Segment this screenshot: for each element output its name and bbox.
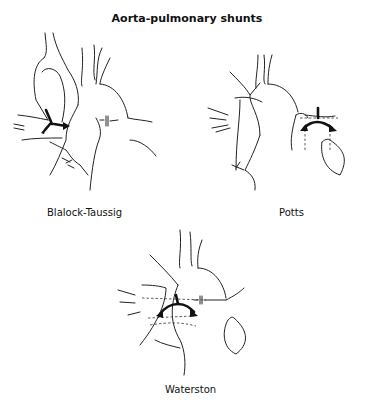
diagram-canvas — [0, 0, 374, 406]
waterston-illustration — [118, 230, 246, 375]
potts-illustration — [208, 55, 344, 190]
panel-label-potts: Potts — [279, 207, 304, 218]
panel-label-blalock-taussig: Blalock-Taussig — [47, 207, 122, 218]
blalock-taussig-illustration — [14, 33, 156, 190]
panel-label-waterston: Waterston — [165, 384, 216, 395]
